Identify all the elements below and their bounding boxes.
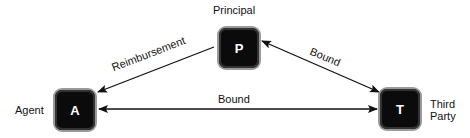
- principal-node: P: [219, 28, 259, 68]
- principal-label: Principal: [213, 4, 255, 16]
- third-party-letter: T: [396, 102, 404, 117]
- third-party-node: T: [380, 89, 420, 129]
- agent-letter: A: [70, 103, 79, 118]
- agent-node: A: [55, 90, 95, 130]
- bound-label-agent-thirdparty: Bound: [218, 93, 250, 105]
- principal-letter: P: [235, 41, 244, 56]
- third-party-label-line2: Party: [430, 110, 456, 122]
- third-party-label-line1: Third: [430, 98, 456, 110]
- third-party-label: Third Party: [430, 98, 456, 122]
- agent-label: Agent: [15, 104, 44, 116]
